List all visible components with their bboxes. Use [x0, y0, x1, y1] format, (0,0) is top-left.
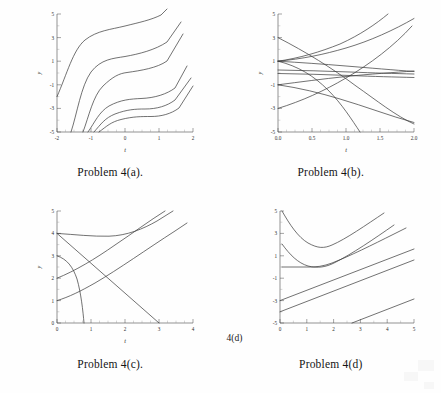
figure-cell-d: 5 3 1 -1 -3 -5 0 1 2 3 4 5	[221, 197, 441, 393]
ytick-label: 5	[274, 208, 277, 214]
y-axis-label: y	[256, 71, 263, 75]
ytick-label: 5	[52, 11, 55, 17]
plot-c-axes	[57, 211, 193, 323]
ytick-label: 1	[272, 58, 275, 64]
y-axis-label: y	[35, 265, 42, 269]
ytick-label: 3	[52, 252, 55, 258]
xtick-label: 2.0	[411, 135, 418, 141]
ytick-label: -5	[272, 320, 277, 326]
plot-a-xtick-labels: -2 -1 0 1 2	[55, 135, 195, 141]
xtick-label: 0	[124, 135, 127, 141]
xtick-label: 2	[192, 135, 195, 141]
x-axis-label: t	[345, 146, 347, 153]
ytick-label: -1	[272, 275, 277, 281]
figure-cell-c: 5 4 3 2 1 0 0 1 2 3 4 t y	[0, 197, 221, 393]
figure-caption-b: Problem 4(b).	[221, 166, 441, 178]
ytick-label: 5	[272, 11, 275, 17]
plot-b: 5 3 1 -1 -3 -5 0.0 0.5 1.0 1.5 2.0 t	[236, 4, 426, 164]
x-axis-label: t	[124, 146, 126, 153]
plot-d-curves	[280, 211, 414, 323]
xtick-label: 1	[90, 326, 93, 332]
ytick-label: 4	[52, 230, 55, 236]
xtick-label: 0.5	[309, 135, 316, 141]
xtick-label: 2	[332, 326, 335, 332]
plot-d-xtick-labels: 0 1 2 3 4 5	[278, 326, 415, 332]
figure-b: 5 3 1 -1 -3 -5 0.0 0.5 1.0 1.5 2.0 t	[221, 0, 441, 197]
xtick-label: 1.5	[377, 135, 384, 141]
ytick-label: 1	[52, 297, 55, 303]
figure-caption-d: Problem 4(d)	[221, 358, 441, 370]
figure-cell-a: 5 3 1 -1 -3 -5 -2 -1 0 1 2 t	[0, 0, 221, 197]
xtick-label: 1	[158, 135, 161, 141]
plot-a-ytick-labels: 5 3 1 -1 -3 -5	[50, 11, 55, 135]
ytick-label: 0	[52, 320, 55, 326]
xtick-label: 1.0	[343, 135, 350, 141]
xtick-label: -1	[89, 135, 94, 141]
figure-cell-b: 5 3 1 -1 -3 -5 0.0 0.5 1.0 1.5 2.0 t	[221, 0, 441, 197]
plot-d-ytick-labels: 5 3 1 -1 -3 -5	[272, 208, 277, 326]
xtick-label: 1	[305, 326, 308, 332]
ytick-label: 3	[52, 35, 55, 41]
x-axis-label: t	[124, 337, 126, 344]
plot-c-curves	[57, 211, 187, 323]
figure-caption-a: Problem 4(a).	[0, 166, 221, 178]
xtick-label: 0	[278, 326, 281, 332]
plot-b-xtick-labels: 0.0 0.5 1.0 1.5 2.0	[275, 135, 418, 141]
xtick-label: 4	[386, 326, 389, 332]
y-axis-label: y	[35, 71, 42, 75]
plot-c-xtick-labels: 0 1 2 3 4	[56, 326, 195, 332]
plot-a-curves	[57, 9, 193, 132]
ytick-label: 5	[52, 208, 55, 214]
ytick-label: 1	[274, 252, 277, 258]
xtick-label: 2	[124, 326, 127, 332]
figure-c: 5 4 3 2 1 0 0 1 2 3 4 t y	[0, 197, 221, 393]
plot-a: 5 3 1 -1 -3 -5 -2 -1 0 1 2 t	[15, 4, 205, 164]
plot-c-ytick-labels: 5 4 3 2 1 0	[52, 208, 55, 326]
ytick-label: -3	[272, 297, 277, 303]
xtick-label: 0.0	[275, 135, 282, 141]
figure-corner-tag-d: 4(d)	[227, 333, 243, 343]
figure-grid: 5 3 1 -1 -3 -5 -2 -1 0 1 2 t	[0, 0, 441, 393]
xtick-label: -2	[55, 135, 60, 141]
ytick-label: -5	[50, 129, 55, 135]
figure-d: 5 3 1 -1 -3 -5 0 1 2 3 4 5	[221, 197, 441, 393]
ytick-label: 3	[272, 35, 275, 41]
plot-b-ytick-labels: 5 3 1 -1 -3 -5	[270, 11, 275, 135]
scanned-page: 5 3 1 -1 -3 -5 -2 -1 0 1 2 t	[0, 0, 441, 393]
ytick-label: -1	[50, 82, 55, 88]
ytick-label: -3	[50, 105, 55, 111]
xtick-label: 0	[56, 326, 59, 332]
ytick-label: -3	[270, 105, 275, 111]
ytick-label: 1	[52, 58, 55, 64]
figure-caption-c: Problem 4(c).	[0, 358, 221, 370]
ytick-label: -1	[270, 82, 275, 88]
plot-d: 5 3 1 -1 -3 -5 0 1 2 3 4 5	[236, 201, 426, 361]
ytick-label: 2	[52, 275, 55, 281]
plot-b-curves	[278, 14, 414, 132]
xtick-label: 4	[192, 326, 195, 332]
plot-c: 5 4 3 2 1 0 0 1 2 3 4 t y	[15, 201, 205, 361]
xtick-label: 3	[359, 326, 362, 332]
xtick-label: 5	[412, 326, 415, 332]
plot-b-axes	[278, 14, 414, 132]
figure-a: 5 3 1 -1 -3 -5 -2 -1 0 1 2 t	[0, 0, 221, 197]
ytick-label: 3	[274, 230, 277, 236]
xtick-label: 3	[158, 326, 161, 332]
